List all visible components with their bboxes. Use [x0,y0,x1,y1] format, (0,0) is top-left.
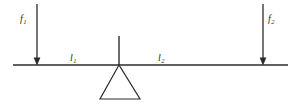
lever-diagram: f1 f2 l1 l2 [0,0,298,107]
label-force-right-subscript: 2 [271,18,275,25]
label-force-left-subscript: 1 [23,18,26,25]
label-arm-right: l2 [158,52,165,64]
lever-diagram-canvas: f1 f2 l1 l2 [0,0,298,107]
label-force-right: f2 [268,13,275,25]
label-arm-left: l1 [70,52,76,64]
label-arm-left-subscript: 1 [73,57,76,64]
label-arm-right-subscript: 2 [161,57,165,64]
label-force-left: f1 [20,13,26,25]
fulcrum-triangle [100,65,140,99]
